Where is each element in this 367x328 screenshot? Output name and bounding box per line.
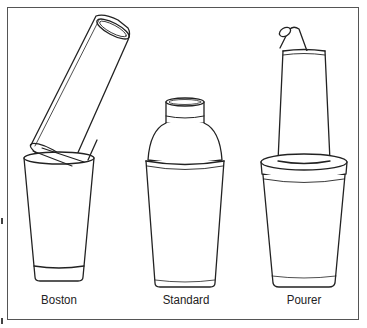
standard-label: Standard [145,293,228,307]
shakers-drawing [0,0,367,328]
pourer-label: Pourer [263,293,346,307]
standard-shaker-icon [146,98,224,287]
shaker-illustration: Boston Standard Pourer [0,0,367,328]
boston-label: Boston [18,293,101,307]
pourer-shaker-icon [261,26,347,287]
boston-shaker-icon [24,15,132,281]
